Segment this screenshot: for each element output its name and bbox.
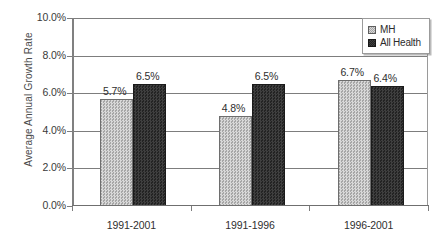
- x-category-label: 1996-2001: [309, 219, 428, 231]
- bar-mh-1991-1996: [219, 116, 252, 206]
- y-tick-label: 8.0%: [14, 49, 66, 61]
- legend-item-mh[interactable]: MH: [368, 23, 425, 36]
- bar-value-label: 6.5%: [122, 70, 173, 82]
- bar-value-label: 5.7%: [89, 85, 140, 97]
- legend-swatch-mh-icon: [368, 26, 376, 34]
- legend-swatch-all-health-icon: [368, 39, 376, 47]
- x-tick-mark: [191, 206, 192, 211]
- x-tick-mark: [309, 206, 310, 211]
- y-tick-label: 0.0%: [14, 199, 66, 211]
- y-tick-label: 10.0%: [14, 11, 66, 23]
- bar-mh-1991-2001: [100, 99, 133, 206]
- legend-label: All Health: [380, 37, 421, 48]
- y-tick-label: 2.0%: [14, 161, 66, 173]
- bar-all-health-1996-2001: [371, 86, 404, 206]
- bar-value-label: 6.4%: [360, 72, 411, 84]
- bar-chart: Average Annual Growth Rate 0.0%2.0%4.0%6…: [0, 0, 445, 250]
- x-tick-mark: [428, 206, 429, 211]
- gridline: [74, 56, 427, 57]
- y-tick-label: 6.0%: [14, 86, 66, 98]
- y-tick-label: 4.0%: [14, 124, 66, 136]
- legend-label: MH: [380, 24, 395, 35]
- bar-value-label: 6.5%: [241, 70, 292, 82]
- chart-legend: MHAll Health: [362, 18, 430, 54]
- legend-item-all-health[interactable]: All Health: [368, 36, 425, 49]
- x-axis-line: [72, 205, 429, 206]
- bar-mh-1996-2001: [338, 80, 371, 206]
- x-category-label: 1991-1996: [191, 219, 310, 231]
- bar-all-health-1991-2001: [133, 84, 166, 206]
- x-category-label: 1991-2001: [72, 219, 191, 231]
- x-tick-mark: [72, 206, 73, 211]
- bar-value-label: 4.8%: [208, 102, 259, 114]
